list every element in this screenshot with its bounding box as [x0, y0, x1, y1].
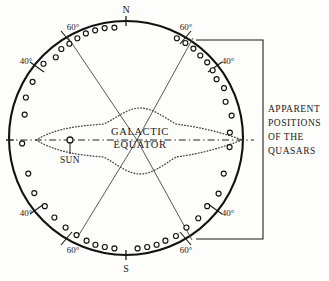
- galactic-equator-label-line1: GALACTIC: [111, 126, 169, 137]
- latitude-label-upper-left-40: 40°: [20, 56, 33, 66]
- quasar-marker: [210, 68, 215, 73]
- south-label: S: [123, 263, 129, 274]
- quasar-marker: [75, 36, 80, 41]
- quasar-marker: [229, 113, 234, 118]
- cone-sight-lines: [67, 36, 193, 240]
- quasar-marker-group: [20, 25, 235, 251]
- quasar-marker: [222, 86, 227, 91]
- quasar-marker: [214, 77, 219, 82]
- quasar-marker: [223, 99, 228, 104]
- latitude-label-upper-right-40: 40°: [222, 56, 235, 66]
- bracket-label-line4: QUASARS: [268, 146, 316, 156]
- latitude-label-lower-left-40: 40°: [20, 208, 33, 218]
- quasar-marker: [30, 79, 35, 84]
- quasar-marker: [93, 28, 98, 33]
- quasar-marker: [198, 53, 203, 58]
- quasar-marker: [191, 46, 196, 51]
- quasar-marker: [23, 95, 28, 100]
- quasar-marker: [184, 225, 189, 230]
- north-label: N: [122, 4, 129, 15]
- quasar-marker: [102, 26, 107, 31]
- latitude-label-upper-left-60: 60°: [67, 22, 80, 32]
- latitude-ticks: [30, 31, 222, 245]
- quasar-marker: [154, 242, 159, 247]
- quasar-marker: [112, 25, 117, 30]
- latitude-label-lower-left-60: 60°: [67, 245, 80, 255]
- quasar-marker: [22, 112, 27, 117]
- quasar-marker: [32, 191, 37, 196]
- quasar-marker: [205, 204, 210, 209]
- latitude-label-lower-right-60: 60°: [180, 245, 193, 255]
- quasar-marker: [135, 246, 140, 251]
- sun-marker-icon: [67, 137, 73, 143]
- quasar-marker: [112, 246, 117, 251]
- sun-label: SUN: [60, 155, 80, 165]
- quasar-marker: [173, 234, 178, 239]
- bracket-label-line3: OF THE: [268, 132, 304, 142]
- quasar-marker: [63, 225, 68, 230]
- bracket-label-line2: POSITIONS: [268, 118, 321, 128]
- quasar-marker: [216, 191, 221, 196]
- figure-canvas: GALACTIC EQUATOR SUN APPARENT POSITIONS …: [0, 0, 329, 281]
- celestial-sphere-circle: [9, 21, 243, 255]
- bracket-label-line1: APPARENT: [268, 104, 320, 114]
- latitude-label-lower-right-40: 40°: [222, 208, 235, 218]
- quasar-marker: [52, 215, 57, 220]
- quasar-marker: [102, 244, 107, 249]
- sun-marker-group: [67, 137, 73, 154]
- quasar-marker: [196, 216, 201, 221]
- quasar-marker: [227, 145, 232, 150]
- quasar-marker: [42, 204, 47, 209]
- quasar-marker: [26, 171, 31, 176]
- quasar-marker: [183, 41, 188, 46]
- quasar-marker: [163, 238, 168, 243]
- quasar-marker: [84, 238, 89, 243]
- quasar-marker: [174, 36, 179, 41]
- quasar-marker: [74, 233, 79, 238]
- quasar-marker: [41, 61, 46, 66]
- quasar-marker: [67, 41, 72, 46]
- quasar-marker: [83, 31, 88, 36]
- quasar-marker: [205, 60, 210, 65]
- quasar-marker: [20, 141, 25, 146]
- latitude-label-upper-right-60: 60°: [180, 22, 193, 32]
- quasar-marker: [59, 47, 64, 52]
- quasar-marker: [93, 242, 98, 247]
- quasar-marker: [221, 171, 226, 176]
- quasar-marker: [227, 130, 232, 135]
- quasar-marker: [53, 55, 58, 60]
- quasar-sphere-figure: GALACTIC EQUATOR SUN APPARENT POSITIONS …: [0, 0, 329, 281]
- quasar-marker: [145, 244, 150, 249]
- galactic-equator-label-line2: EQUATOR: [113, 139, 166, 150]
